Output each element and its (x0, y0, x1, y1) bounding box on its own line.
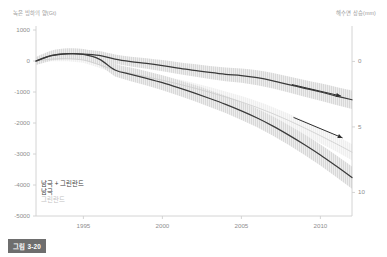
x-axis-tick-label: 2010 (300, 222, 340, 229)
y-axis-tick-label-left: -1000 (0, 88, 30, 95)
y-axis-tick-label-left: -3000 (0, 150, 30, 157)
uncertainty-band-layer (36, 48, 352, 189)
legend-item-antarctica-greenland: 남극 + 그린란드 (41, 180, 84, 188)
y-axis-tick-label-left: -5000 (0, 212, 30, 219)
y-axis-tick-label-left: 0 (0, 57, 30, 64)
figure-container: 녹은 빙하의 양(Gt) 해수면 상승(mm) 10000-1000-2000-… (0, 0, 387, 257)
legend-item-antarctica: 남극 (41, 188, 84, 196)
y-axis-tick-label-left: -2000 (0, 119, 30, 126)
y-axis-tick-label-right: 10 (358, 188, 380, 195)
x-axis-tick-label: 1995 (63, 222, 103, 229)
y-axis-tick-label-left: -4000 (0, 181, 30, 188)
chart-legend: 남극 + 그린란드 남극 그린란드 (41, 180, 84, 205)
legend-item-greenland: 그린란드 (41, 196, 84, 204)
y-axis-tick-label-right: 5 (358, 123, 380, 130)
chart-plot-area (0, 0, 387, 257)
y-axis-tick-label-left: 1000 (0, 26, 30, 33)
x-axis-tick-label: 2005 (221, 222, 261, 229)
y-axis-tick-label-right: 0 (358, 57, 380, 64)
x-axis-tick-label: 2000 (142, 222, 182, 229)
figure-caption-badge: 그림 3-20 (8, 239, 46, 253)
